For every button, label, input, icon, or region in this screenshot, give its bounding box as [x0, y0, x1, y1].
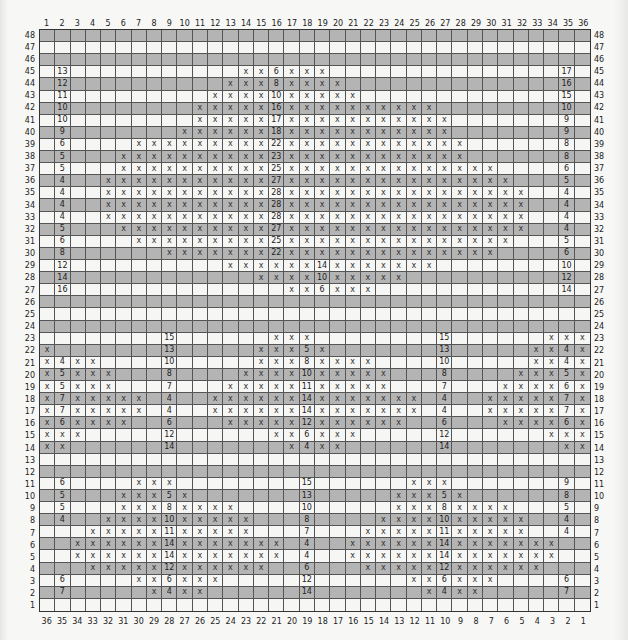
grid-cell	[452, 284, 467, 296]
stitch-mark: x	[391, 248, 406, 260]
stitch-mark: x	[116, 151, 131, 163]
grid-cell	[468, 381, 483, 393]
grid-cell	[391, 466, 406, 478]
stitch-mark: x	[391, 175, 406, 187]
grid-cell	[40, 526, 55, 538]
stitch-mark: x	[177, 199, 192, 211]
grid-cell	[498, 321, 513, 333]
stitch-count: 6	[269, 66, 284, 78]
stitch-mark: x	[193, 127, 208, 139]
grid-cell	[468, 599, 483, 611]
grid-cell	[177, 78, 192, 90]
grid-cell	[193, 30, 208, 42]
stitch-mark: x	[284, 115, 299, 127]
stitch-mark: x	[223, 236, 238, 248]
grid-cell	[71, 199, 86, 211]
stitch-mark: x	[330, 151, 345, 163]
grid-cell	[208, 308, 223, 320]
row-label: 5	[10, 551, 35, 563]
grid-cell	[315, 296, 330, 308]
stitch-count: 4	[55, 357, 70, 369]
grid-cell	[452, 321, 467, 333]
grid-cell	[239, 490, 254, 502]
grid-cell	[529, 260, 544, 272]
grid-cell	[544, 587, 559, 599]
grid-cell	[483, 442, 498, 454]
grid-cell	[498, 42, 513, 54]
stitch-count: 10	[559, 260, 574, 272]
stitch-mark: x	[177, 526, 192, 538]
grid-cell	[514, 357, 529, 369]
grid-cell	[208, 284, 223, 296]
grid-cell	[284, 526, 299, 538]
stitch-mark: x	[223, 393, 238, 405]
row-label: 48	[594, 29, 619, 41]
grid-cell	[71, 78, 86, 90]
stitch-mark: x	[330, 175, 345, 187]
stitch-mark: x	[269, 393, 284, 405]
grid-cell	[575, 478, 590, 490]
grid-cell	[575, 587, 590, 599]
grid-cell	[101, 103, 116, 115]
grid-cell	[147, 454, 162, 466]
grid-cell	[86, 502, 101, 514]
stitch-mark: x	[254, 538, 269, 550]
grid-cell	[132, 357, 147, 369]
stitch-mark: x	[239, 199, 254, 211]
stitch-mark: x	[101, 538, 116, 550]
stitch-mark: x	[346, 224, 361, 236]
grid-cell	[101, 333, 116, 345]
stitch-mark: x	[40, 417, 55, 429]
stitch-mark: x	[514, 563, 529, 575]
stitch-mark: x	[452, 139, 467, 151]
grid-cell	[575, 260, 590, 272]
grid-cell	[132, 308, 147, 320]
stitch-count: 5	[559, 236, 574, 248]
stitch-mark: x	[391, 224, 406, 236]
row-label: 17	[10, 406, 35, 418]
grid-cell	[544, 308, 559, 320]
grid-cell	[483, 490, 498, 502]
grid-cell	[330, 30, 345, 42]
stitch-mark: x	[177, 139, 192, 151]
grid-cell	[239, 575, 254, 587]
stitch-mark: x	[132, 405, 147, 417]
grid-cell	[101, 454, 116, 466]
grid-cell	[177, 393, 192, 405]
grid-cell	[55, 308, 70, 320]
grid-cell	[101, 115, 116, 127]
stitch-mark: x	[361, 369, 376, 381]
row-label: 3	[594, 576, 619, 588]
grid-cell	[116, 248, 131, 260]
row-label: 45	[594, 65, 619, 77]
grid-cell	[86, 187, 101, 199]
stitch-mark: x	[116, 563, 131, 575]
stitch-mark: x	[376, 393, 391, 405]
grid-cell	[483, 151, 498, 163]
grid-cell	[468, 478, 483, 490]
grid-cell	[468, 78, 483, 90]
stitch-count: 16	[559, 78, 574, 90]
stitch-mark: x	[452, 550, 467, 562]
grid-cell	[116, 466, 131, 478]
grid-cell	[86, 260, 101, 272]
grid-cell	[529, 308, 544, 320]
grid-cell	[71, 30, 86, 42]
grid-cell	[422, 30, 437, 42]
grid-cell	[407, 54, 422, 66]
stitch-mark: x	[422, 115, 437, 127]
grid-cell	[208, 260, 223, 272]
grid-cell	[407, 321, 422, 333]
stitch-mark: x	[559, 333, 574, 345]
stitch-count: 27	[269, 224, 284, 236]
column-label: 18	[315, 617, 330, 626]
grid-cell	[132, 442, 147, 454]
stitch-mark: x	[575, 429, 590, 441]
grid-cell	[116, 429, 131, 441]
grid-cell	[86, 272, 101, 284]
stitch-mark: x	[544, 333, 559, 345]
grid-cell	[193, 345, 208, 357]
grid-cell	[86, 224, 101, 236]
row-label: 46	[10, 53, 35, 65]
grid-cell	[177, 333, 192, 345]
